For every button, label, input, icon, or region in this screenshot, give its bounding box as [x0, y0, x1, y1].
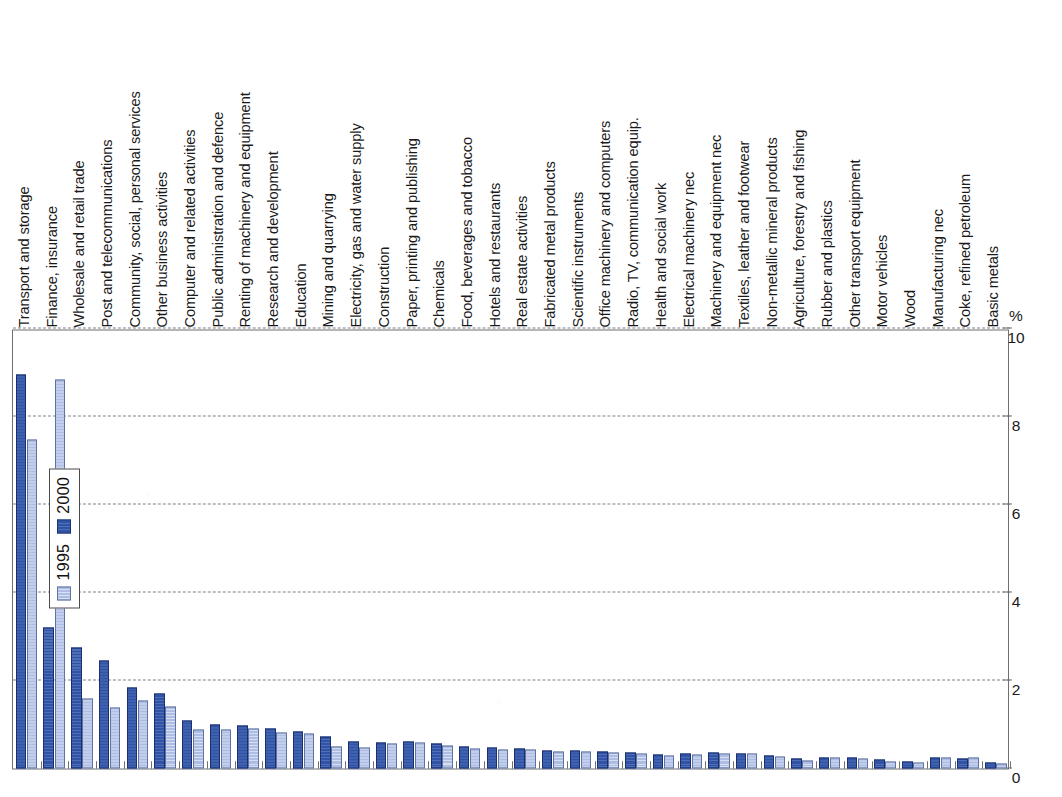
- bar-group: [512, 330, 540, 768]
- bar-1995: [470, 748, 481, 768]
- bar-group: [151, 330, 179, 768]
- bar-1995: [331, 746, 342, 768]
- bar-2000: [210, 724, 221, 768]
- bar-2000: [154, 693, 165, 768]
- bar-2000: [625, 752, 636, 768]
- category-label: Mining and quarrying: [320, 9, 336, 327]
- bar-group: [318, 330, 346, 768]
- category-label: Manufacturing nec: [930, 9, 946, 327]
- bar-group: [816, 330, 844, 768]
- bar-group: [262, 330, 290, 768]
- category-label: Wood: [902, 9, 918, 327]
- category-label: Chemicals: [431, 9, 447, 327]
- bar-group: [899, 330, 927, 768]
- category-label: Food, beverages and tobacco: [459, 9, 475, 327]
- bar-1995: [193, 729, 204, 768]
- bar-2000: [764, 755, 775, 768]
- bar-2000: [791, 758, 802, 768]
- bar-group: [207, 330, 235, 768]
- bar-2000: [71, 647, 82, 768]
- bar-2000: [403, 741, 414, 768]
- bar-1995: [138, 700, 149, 768]
- legend-swatch-1995: [57, 586, 71, 600]
- bar-group: [927, 330, 955, 768]
- category-label: Paper, printing and publishing: [404, 9, 420, 327]
- legend-label-1995: 1995: [55, 543, 73, 580]
- category-label: Other business activities: [154, 9, 170, 327]
- bar-2000: [182, 720, 193, 768]
- bar-2000: [736, 753, 747, 768]
- bar-group: [456, 330, 484, 768]
- category-label: Fabricated metal products: [542, 9, 558, 327]
- category-label: Agriculture, forestry and fishing: [791, 9, 807, 327]
- bar-1995: [248, 728, 259, 768]
- bar-1995: [110, 707, 121, 768]
- category-label: Scientific instruments: [570, 9, 586, 327]
- bar-2000: [514, 748, 525, 768]
- bar-2000: [847, 757, 858, 768]
- bar-1995: [636, 753, 647, 768]
- bar-group: [872, 330, 900, 768]
- category-label: Wholesale and retail trade: [71, 9, 87, 327]
- bar-2000: [265, 728, 276, 768]
- category-label: Motor vehicles: [874, 9, 890, 327]
- bar-2000: [930, 757, 941, 768]
- bar-2000: [708, 752, 719, 768]
- category-label: Basic metals: [985, 9, 1001, 327]
- bar-group: [678, 330, 706, 768]
- bar-2000: [680, 753, 691, 768]
- category-label: Computer and related activities: [182, 9, 198, 327]
- bar-2000: [43, 627, 54, 768]
- legend-item-1995: 1995: [55, 543, 73, 600]
- bar-1995: [304, 733, 315, 768]
- bar-1995: [968, 757, 979, 768]
- bar-series-container: [13, 330, 1008, 768]
- bar-group: [290, 330, 318, 768]
- bar-1995: [581, 751, 592, 768]
- category-label: Coke, refined petroleum: [957, 9, 973, 327]
- bar-group: [761, 330, 789, 768]
- category-label: Electricity, gas and water supply: [348, 9, 364, 327]
- bar-1995: [719, 753, 730, 768]
- bar-group: [788, 330, 816, 768]
- bar-group: [179, 330, 207, 768]
- category-label: Radio, TV, communication equip.: [625, 9, 641, 327]
- legend-swatch-2000: [57, 519, 71, 533]
- bar-2000: [874, 759, 885, 768]
- bar-group: [13, 330, 41, 768]
- category-label: Education: [293, 9, 309, 327]
- legend-item-2000: 2000: [55, 476, 73, 533]
- bar-group: [567, 330, 595, 768]
- category-label: Research and development: [265, 9, 281, 327]
- bar-1995: [165, 706, 176, 768]
- bar-1995: [525, 749, 536, 768]
- bar-1995: [775, 756, 786, 768]
- category-label: Construction: [376, 9, 392, 327]
- bar-2000: [819, 757, 830, 768]
- bar-group: [401, 330, 429, 768]
- bar-group: [235, 330, 263, 768]
- bar-1995: [802, 760, 813, 768]
- bar-1995: [830, 757, 841, 768]
- bar-2000: [542, 750, 553, 768]
- category-axis-labels: Transport and storageFinance, insuranceW…: [12, 7, 1009, 327]
- category-label: Rubber and plastics: [819, 9, 835, 327]
- category-label: Renting of machinery and equipment: [237, 9, 253, 327]
- bar-1995: [82, 698, 93, 768]
- category-label: Health and social work: [653, 9, 669, 327]
- category-label: Machinery and equipment nec: [708, 9, 724, 327]
- legend-label-2000: 2000: [55, 476, 73, 513]
- category-label: Real estate activities: [514, 9, 530, 327]
- bar-2000: [597, 751, 608, 768]
- bar-1995: [941, 757, 952, 768]
- bar-group: [622, 330, 650, 768]
- category-label: Hotels and restaurants: [487, 9, 503, 327]
- bar-group: [428, 330, 456, 768]
- bar-1995: [498, 749, 509, 768]
- bar-group: [650, 330, 678, 768]
- bar-group: [595, 330, 623, 768]
- bar-group: [733, 330, 761, 768]
- bar-1995: [608, 752, 619, 768]
- bar-1995: [858, 758, 869, 768]
- bar-1995: [996, 763, 1007, 768]
